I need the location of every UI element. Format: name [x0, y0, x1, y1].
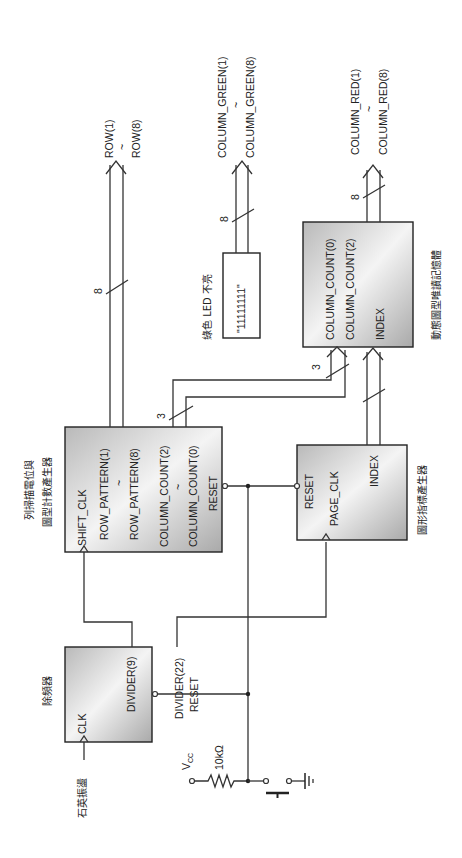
- green-out-8: COLUMN_GREEN(8): [244, 56, 256, 158]
- pattern-memory-box: [303, 222, 413, 347]
- pattern-index-pin-reset: RESET: [303, 473, 315, 509]
- vcc-label: VCC: [180, 753, 194, 770]
- pattern-index-pin-pageclk: PAGE_CLK: [328, 471, 340, 526]
- divider-pin-clk: CLK: [76, 714, 88, 734]
- row-scan-pin-col0: COLUMN_COUNT(0): [187, 445, 199, 547]
- red-out-1: COLUMN_RED(1): [349, 69, 361, 155]
- green-const-block: 綠色 LED 不亮 "11111111": [201, 253, 260, 340]
- pattern-index-pin-index: INDEX: [368, 455, 380, 487]
- colcount-bus-inner: [186, 350, 345, 427]
- red-bus-width: 8: [349, 194, 361, 200]
- green-bus-arrow-icon: [232, 161, 252, 174]
- green-out-1: COLUMN_GREEN(1): [216, 56, 228, 158]
- red-out-8: COLUMN_RED(8): [377, 69, 389, 155]
- green-bus-width: 8: [218, 216, 230, 222]
- wire-divider9-shiftclk: [84, 552, 132, 647]
- red-out-tilde: ~: [363, 106, 375, 112]
- pattern-index-title: 圖形指標產生器: [416, 465, 428, 535]
- pattern-index-block: 圖形指標產生器 RESET PAGE_CLK INDEX: [297, 445, 428, 540]
- row-scan-pin-row8: ROW_PATTERN(8): [128, 448, 140, 540]
- colcount-bus-arrow-icon: [327, 347, 347, 357]
- patternindex-reset-bubble: [295, 484, 300, 489]
- row-out-tilde: ~: [116, 144, 128, 150]
- pattern-memory-pin-index: INDEX: [374, 308, 386, 340]
- row-scan-pin-reset: RESET: [207, 475, 219, 511]
- green-out-tilde: ~: [230, 102, 242, 108]
- row-scan-title-1: 列掃描電位與: [23, 460, 35, 520]
- row-scan-pin-shift-clk: SHIFT_CLK: [76, 489, 88, 546]
- oscillator-label: 石英振盪: [76, 778, 88, 818]
- switch-contact-right: [287, 779, 292, 784]
- colcount-src-width: 3: [155, 413, 167, 419]
- pattern-memory-block: 動態圖型唯讀記憶體 COLUMN_COUNT(0) COLUMN_COUNT(2…: [303, 222, 442, 347]
- pattern-memory-pin-col2: COLUMN_COUNT(2): [344, 238, 356, 340]
- rowscan-reset-bubble: [223, 484, 228, 489]
- row-out-8: ROW(8): [130, 120, 142, 159]
- row-scan-pin-col2: COLUMN_COUNT(2): [158, 445, 170, 547]
- row-scan-block: 列掃描電位與 圖型計數產生器 SHIFT_CLK ROW_PATTERN(1) …: [23, 427, 222, 552]
- row-scan-col-tilde: ~: [172, 484, 184, 490]
- resistor-icon: [195, 775, 249, 787]
- pattern-memory-pin-col0: COLUMN_COUNT(0): [324, 238, 336, 340]
- row-scan-row-tilde: ~: [113, 480, 125, 486]
- block-diagram: 除頻器 CLK DIVIDER(9) DIVIDER(22) RESET 石英振…: [0, 0, 462, 858]
- switch-contact-left: [264, 779, 269, 784]
- row-scan-pin-row1: ROW_PATTERN(1): [98, 448, 110, 540]
- colcount-bus-outer: [173, 350, 331, 427]
- wire-divider22-pageclk: [177, 542, 326, 647]
- index-bus-slash: [363, 389, 385, 402]
- vcc-terminal: [190, 779, 195, 784]
- row-out-1: ROW(1): [103, 120, 115, 159]
- row-scan-title-2: 圖型計數產生器: [41, 457, 53, 527]
- red-bus-slash: [363, 185, 385, 198]
- pattern-memory-title: 動態圖型唯讀記憶體: [430, 250, 442, 340]
- resistor-label: 10kΩ: [213, 745, 225, 770]
- divider-pin-divider22: DIVIDER(22): [173, 658, 185, 719]
- green-const-value: "11111111": [235, 284, 247, 333]
- green-const-title: 綠色 LED 不亮: [201, 274, 213, 340]
- row-bus-width: 8: [92, 288, 104, 294]
- junction-mid: [246, 692, 250, 696]
- divider-title: 除頻器: [41, 676, 53, 706]
- row-bus-slash: [106, 280, 128, 294]
- colcount-dst-width: 3: [310, 364, 322, 370]
- green-bus-slash: [232, 209, 254, 222]
- divider-pin-divider9: DIVIDER(9): [125, 657, 137, 712]
- junction-top: [246, 484, 250, 488]
- divider-reset-bubble: [153, 692, 158, 697]
